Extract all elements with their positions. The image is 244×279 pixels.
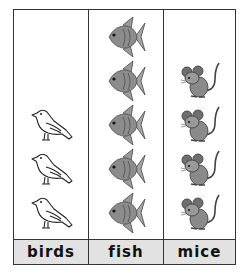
fish-icon: [103, 103, 149, 147]
bird-icon: [28, 191, 74, 235]
fish-icon: [103, 59, 149, 103]
mice-label: mice: [164, 239, 235, 264]
mouse-icon: [177, 191, 223, 235]
bird-icon: [28, 103, 74, 147]
fish-column: [89, 10, 164, 239]
fish-label: fish: [89, 239, 164, 264]
birds-label: birds: [14, 239, 89, 264]
fish-icon: [103, 147, 149, 191]
fish-icon: [103, 15, 149, 59]
mouse-icon: [177, 147, 223, 191]
mouse-icon: [177, 59, 223, 103]
mouse-icon: [177, 103, 223, 147]
mice-column: [164, 10, 235, 239]
fish-icon: [103, 191, 149, 235]
pictograph-table: birds fish mice: [13, 9, 236, 265]
bird-icon: [28, 147, 74, 191]
birds-column: [14, 10, 89, 239]
